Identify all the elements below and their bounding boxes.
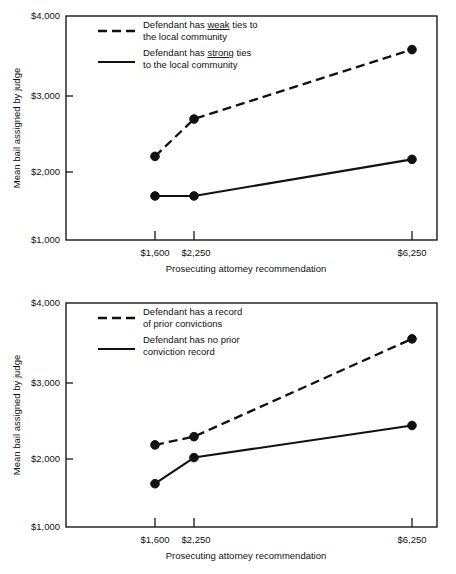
y-tick-label-2000-top: $2,000 [31,166,60,177]
data-point-marker [151,479,160,488]
x-tick-label-1600-bottom: $1,600 [140,534,169,545]
series-group-bottom [151,335,417,488]
x-tick-label-2250-bottom: $2,250 [181,534,210,545]
legend-label-prior-record-line1: Defendant has a record [143,306,242,317]
data-point-marker [408,421,417,430]
legend-text-pre: Defendant has [143,19,207,30]
data-point-marker [190,115,199,124]
data-point-marker [408,45,417,54]
legend-label-no-prior-record-line1: Defendant has no prior [143,334,240,345]
legend-text-post: ties to [230,19,258,30]
data-point-marker [190,453,199,462]
x-tick-label-6250-bottom: $6,250 [397,534,426,545]
series-markers-strong-ties [151,155,417,200]
legend-bottom: Defendant has a record of prior convicti… [98,306,242,357]
legend-label-weak-ties-line1: Defendant has weak ties to [143,19,258,30]
legend-top: Defendant has weak ties to the local com… [98,19,258,70]
data-point-marker [151,152,160,161]
legend-label-strong-ties-line2: to the local community [143,59,238,70]
legend-label-weak-ties-line2: the local community [143,31,227,42]
community-ties-plot: Mean bail assigned by judge $4,000 $3,00… [0,0,456,287]
x-axis-title-bottom: Prosecuting attorney recommendation [166,550,327,561]
legend-label-no-prior-record-line2: conviction record [143,346,215,357]
prior-convictions-plot: Mean bail assigned by judge $4,000 $3,00… [0,287,456,574]
legend-text-post: ties [234,47,252,58]
y-tick-label-4000-bottom: $4,000 [31,297,60,308]
y-tick-label-2000-bottom: $2,000 [31,453,60,464]
series-line-strong-ties [155,159,412,196]
y-tick-label-1000-bottom: $1,000 [31,521,60,532]
x-tick-label-1600-top: $1,600 [140,247,169,258]
legend-text-emphasis: weak [206,19,229,30]
y-axis-title-bottom: Mean bail assigned by judge [11,355,22,475]
data-point-marker [151,192,160,201]
plot-frame-top [66,16,437,240]
y-tick-label-4000-top: $4,000 [31,10,60,21]
chart-figure-prior-convictions: Mean bail assigned by judge $4,000 $3,00… [0,287,456,574]
data-point-marker [190,192,199,201]
y-tick-label-1000-top: $1,000 [31,234,60,245]
chart-figure-community-ties: Mean bail assigned by judge $4,000 $3,00… [0,0,456,287]
legend-label-prior-record-line2: of prior convictions [143,318,222,329]
y-tick-label-3000-top: $3,000 [31,90,60,101]
data-point-marker [408,335,417,344]
x-tick-label-2250-top: $2,250 [181,247,210,258]
x-axis-title-top: Prosecuting attorney recommendation [166,263,327,274]
legend-text-pre: Defendant has [143,47,207,58]
plot-frame-bottom [66,303,437,527]
x-tick-label-6250-top: $6,250 [397,247,426,258]
legend-text-emphasis: strong [207,47,233,58]
y-tick-label-3000-bottom: $3,000 [31,377,60,388]
data-point-marker [151,441,160,450]
legend-label-strong-ties-line1: Defendant has strong ties [143,47,252,58]
y-axis-title-top: Mean bail assigned by judge [11,68,22,188]
data-point-marker [408,155,417,164]
data-point-marker [190,432,199,441]
